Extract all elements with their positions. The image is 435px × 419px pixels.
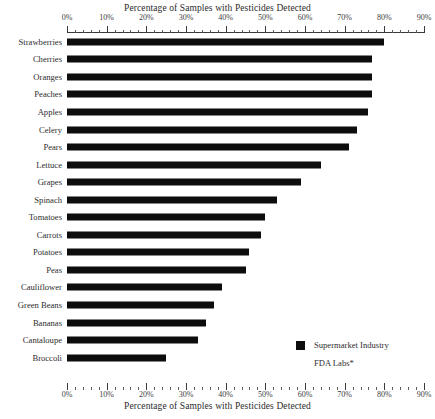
bottom-axis-ticks bbox=[67, 381, 424, 390]
axis-tick-major bbox=[226, 383, 227, 390]
axis-tick-major bbox=[107, 26, 108, 33]
bar-supermarket-industry bbox=[67, 161, 321, 168]
category-label: Peaches bbox=[34, 89, 62, 99]
category-label: Pears bbox=[43, 142, 62, 152]
category-label: Strawberries bbox=[19, 37, 62, 47]
axis-tick-label: 50% bbox=[258, 390, 273, 399]
axis-tick-major bbox=[265, 383, 266, 390]
axis-tick-major bbox=[384, 383, 385, 390]
axis-tick-label: 40% bbox=[218, 13, 233, 22]
axis-tick-label: 30% bbox=[179, 13, 194, 22]
category-label: Spinach bbox=[34, 195, 62, 205]
category-label: Carrots bbox=[37, 230, 62, 240]
axis-tick-label: 80% bbox=[377, 390, 392, 399]
bar-supermarket-industry bbox=[67, 56, 372, 63]
axis-tick-major bbox=[345, 26, 346, 33]
axis-tick-label: 30% bbox=[179, 390, 194, 399]
bar-supermarket-industry bbox=[67, 302, 214, 309]
bar-supermarket-industry bbox=[67, 319, 206, 326]
bar-supermarket-industry bbox=[67, 38, 384, 45]
axis-tick-label: 90% bbox=[417, 13, 432, 22]
axis-tick-major bbox=[226, 26, 227, 33]
bar-supermarket-industry bbox=[67, 73, 372, 80]
chart-row: Bananas bbox=[67, 314, 424, 332]
bar-supermarket-industry bbox=[67, 108, 368, 115]
legend-label: Supermarket Industry bbox=[314, 340, 389, 350]
chart-row: Cherries bbox=[67, 51, 424, 69]
category-label: Celery bbox=[39, 125, 62, 135]
chart-row: Tomatoes bbox=[67, 209, 424, 227]
axis-tick-major bbox=[107, 383, 108, 390]
axis-tick-label: 0% bbox=[62, 13, 73, 22]
axis-tick-major bbox=[345, 383, 346, 390]
axis-tick-major bbox=[424, 26, 425, 33]
bar-supermarket-industry bbox=[67, 231, 261, 238]
axis-tick-major bbox=[67, 383, 68, 390]
chart-row: Strawberries bbox=[67, 33, 424, 51]
bar-supermarket-industry bbox=[67, 337, 198, 344]
axis-tick-label: 60% bbox=[298, 390, 313, 399]
category-label: Lettuce bbox=[36, 160, 62, 170]
chart-row: Green Beans bbox=[67, 296, 424, 314]
chart-row: Peas bbox=[67, 261, 424, 279]
axis-tick-major bbox=[186, 26, 187, 33]
category-label: Cherries bbox=[33, 54, 62, 64]
axis-tick-major bbox=[305, 383, 306, 390]
chart-row: Lettuce bbox=[67, 156, 424, 174]
chart-row: Oranges bbox=[67, 68, 424, 86]
axis-tick-major bbox=[305, 26, 306, 33]
legend-label: FDA Labs* bbox=[314, 358, 354, 368]
axis-tick-major bbox=[265, 26, 266, 33]
axis-tick-major bbox=[384, 26, 385, 33]
axis-tick-label: 10% bbox=[99, 390, 114, 399]
category-label: Grapes bbox=[38, 177, 62, 187]
axis-tick-label: 90% bbox=[417, 390, 432, 399]
category-label: Broccoli bbox=[32, 353, 62, 363]
bar-supermarket-industry bbox=[67, 196, 277, 203]
bar-supermarket-industry bbox=[67, 214, 265, 221]
legend-item: FDA Labs* bbox=[296, 354, 426, 372]
axis-tick-major bbox=[67, 26, 68, 33]
pesticide-bar-chart: Percentage of Samples with Pesticides De… bbox=[0, 0, 435, 419]
chart-row: Carrots bbox=[67, 226, 424, 244]
axis-tick-major bbox=[146, 26, 147, 33]
axis-tick-label: 50% bbox=[258, 13, 273, 22]
bar-supermarket-industry bbox=[67, 284, 222, 291]
category-label: Cauliflower bbox=[21, 282, 62, 292]
axis-tick-major bbox=[146, 383, 147, 390]
category-label: Apples bbox=[38, 107, 62, 117]
axis-tick-label: 80% bbox=[377, 13, 392, 22]
chart-row: Grapes bbox=[67, 173, 424, 191]
axis-tick-label: 70% bbox=[337, 13, 352, 22]
chart-row: Celery bbox=[67, 121, 424, 139]
chart-row: Peaches bbox=[67, 86, 424, 104]
bar-supermarket-industry bbox=[67, 91, 372, 98]
bar-supermarket-industry bbox=[67, 126, 357, 133]
bar-supermarket-industry bbox=[67, 266, 246, 273]
chart-row: Pears bbox=[67, 138, 424, 156]
axis-tick-label: 10% bbox=[99, 13, 114, 22]
bar-supermarket-industry bbox=[67, 249, 249, 256]
category-label: Green Beans bbox=[18, 300, 62, 310]
axis-tick-label: 70% bbox=[337, 390, 352, 399]
category-label: Bananas bbox=[33, 318, 62, 328]
category-label: Tomatoes bbox=[29, 212, 62, 222]
bottom-axis-title: Percentage of Samples with Pesticides De… bbox=[0, 401, 435, 411]
chart-row: Potatoes bbox=[67, 244, 424, 262]
top-axis-ticks bbox=[67, 24, 424, 33]
legend-swatch bbox=[296, 341, 305, 350]
chart-row: Spinach bbox=[67, 191, 424, 209]
axis-tick-label: 0% bbox=[62, 390, 73, 399]
category-label: Oranges bbox=[33, 72, 62, 82]
chart-row: Apples bbox=[67, 103, 424, 121]
axis-tick-label: 20% bbox=[139, 13, 154, 22]
bar-supermarket-industry bbox=[67, 144, 349, 151]
plot-area: StrawberriesCherriesOrangesPeachesApples… bbox=[67, 33, 424, 378]
axis-tick-label: 40% bbox=[218, 390, 233, 399]
chart-legend: Supermarket IndustryFDA Labs* bbox=[296, 336, 426, 372]
legend-swatch bbox=[296, 359, 305, 368]
axis-tick-major bbox=[424, 383, 425, 390]
axis-tick-major bbox=[186, 383, 187, 390]
category-label: Peas bbox=[46, 265, 62, 275]
category-label: Cantaloupe bbox=[23, 335, 62, 345]
